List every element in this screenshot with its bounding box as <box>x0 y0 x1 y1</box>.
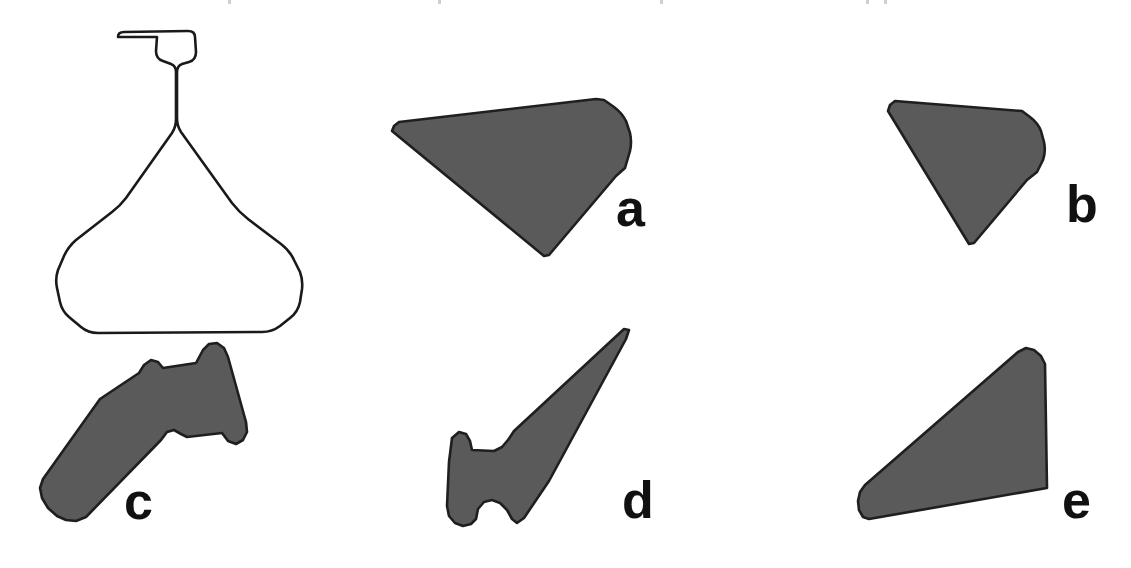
figure-canvas <box>0 0 1131 568</box>
shape-label-c: c <box>124 475 153 527</box>
shape-label-d: d <box>622 474 654 526</box>
flask-outline-shape <box>56 31 302 333</box>
shape-label-b: b <box>1066 178 1098 230</box>
shape-d-silhouette <box>447 329 629 526</box>
shape-label-a: a <box>616 182 645 234</box>
figure-plate: a b c d e <box>0 0 1131 568</box>
shape-a-silhouette <box>392 99 631 256</box>
shape-label-e: e <box>1062 474 1091 526</box>
shape-b-silhouette <box>888 101 1045 244</box>
shape-e-silhouette <box>858 348 1047 519</box>
